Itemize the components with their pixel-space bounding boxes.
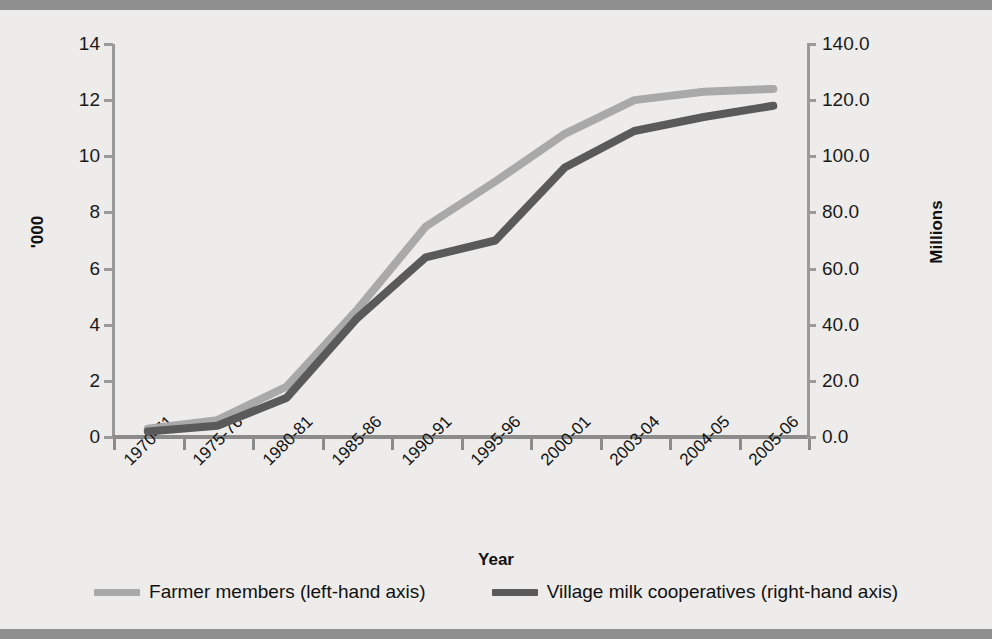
chart-page: 02468101214 0.020.040.060.080.0100.0120.… <box>0 0 992 639</box>
legend-label: Village milk cooperatives (right-hand ax… <box>547 581 898 603</box>
legend-swatch-icon <box>94 589 140 596</box>
right-axis-title: Millions <box>927 200 947 263</box>
series-line <box>148 106 774 432</box>
x-axis-title: Year <box>0 550 992 570</box>
series-lines <box>0 10 992 629</box>
series-line <box>148 89 774 429</box>
top-rule <box>0 0 992 10</box>
legend-item[interactable]: Village milk cooperatives (right-hand ax… <box>492 581 898 603</box>
left-axis-title: '000 <box>28 216 48 248</box>
bottom-rule <box>0 629 992 639</box>
chart-canvas: 02468101214 0.020.040.060.080.0100.0120.… <box>0 10 992 629</box>
legend-swatch-icon <box>492 589 538 596</box>
legend-item[interactable]: Farmer members (left-hand axis) <box>94 581 426 603</box>
chart-legend: Farmer members (left-hand axis)Village m… <box>0 572 992 612</box>
legend-label: Farmer members (left-hand axis) <box>149 581 426 603</box>
